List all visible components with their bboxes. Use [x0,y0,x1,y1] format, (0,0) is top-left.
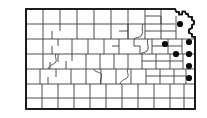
occurrence-dot [186,63,192,69]
occurrence-dot [186,75,192,81]
occurrence-dot [186,51,192,57]
occurrence-dot [186,39,192,45]
occurrence-dot [177,21,183,27]
occurrence-dot [173,51,179,57]
map-canvas [0,0,207,118]
occurrence-dot [162,41,168,47]
kansas-distribution-map: Kansas county distribution map [0,0,207,118]
